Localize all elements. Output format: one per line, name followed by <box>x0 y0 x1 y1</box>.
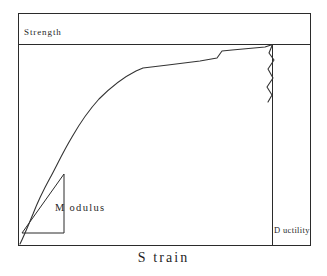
modulus-label: M odulus <box>55 202 105 213</box>
x-axis-label: S train <box>0 250 327 266</box>
ductility-label: D uctility <box>274 225 310 235</box>
strength-label: Strength <box>24 27 62 37</box>
stress-strain-figure: Strength M odulus D uctility S train <box>0 0 327 276</box>
